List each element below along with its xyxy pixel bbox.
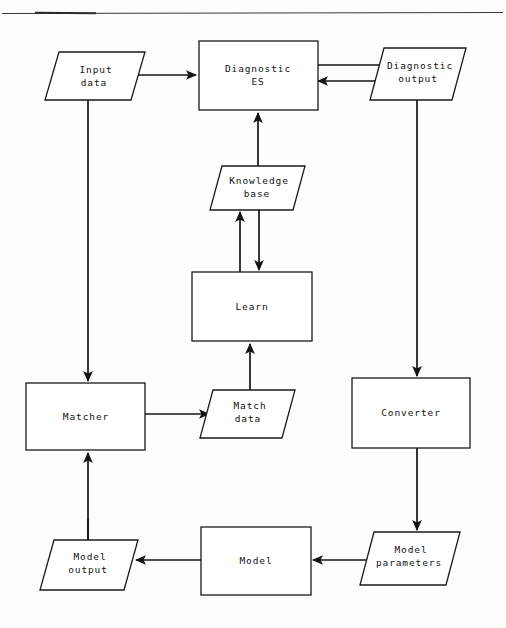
node-diagnostic-es[interactable]: Diagnostic ES <box>199 41 318 110</box>
node-matcher[interactable]: Matcher <box>26 383 145 450</box>
node-model-label: Model <box>239 555 272 566</box>
node-converter-label: Converter <box>381 407 441 418</box>
node-converter[interactable]: Converter <box>352 378 470 448</box>
node-diagnostic-output[interactable]: Diagnostic output <box>370 48 466 100</box>
node-knowledge-base-label-line2: base <box>244 188 270 199</box>
flowchart-canvas: Input data Diagnostic ES Diagnostic outp… <box>0 0 506 628</box>
node-knowledge-base[interactable]: Knowledge base <box>210 166 305 210</box>
node-input-data[interactable]: Input data <box>45 52 145 100</box>
node-match-data[interactable]: Match data <box>200 390 295 438</box>
node-match-data-label-line1: Match <box>233 400 266 411</box>
node-model-parameters-label-line2: parameters <box>376 557 442 568</box>
node-knowledge-base-label-line1: Knowledge <box>229 175 289 186</box>
node-model[interactable]: Model <box>201 527 311 595</box>
diagram-page: Input data Diagnostic ES Diagnostic outp… <box>0 0 506 628</box>
node-learn[interactable]: Learn <box>192 272 312 341</box>
node-input-data-label-line1: Input <box>79 64 112 75</box>
node-match-data-label-line2: data <box>235 413 261 424</box>
node-diagnostic-es-label-line2: ES <box>251 76 264 87</box>
node-matcher-label: Matcher <box>63 411 109 422</box>
node-diagnostic-output-label-line2: output <box>398 73 438 84</box>
node-model-output-label-line1: Model <box>73 551 106 562</box>
node-learn-label: Learn <box>235 301 268 312</box>
node-diagnostic-output-label-line1: Diagnostic <box>387 60 453 71</box>
node-model-parameters[interactable]: Model parameters <box>360 532 460 585</box>
node-input-data-label-line2: data <box>81 77 107 88</box>
node-diagnostic-es-label-line1: Diagnostic <box>225 63 291 74</box>
top-divider-rule <box>2 13 503 14</box>
node-model-parameters-label-line1: Model <box>394 544 427 555</box>
node-model-output-label-line2: output <box>68 564 108 575</box>
node-model-output[interactable]: Model output <box>40 540 138 590</box>
